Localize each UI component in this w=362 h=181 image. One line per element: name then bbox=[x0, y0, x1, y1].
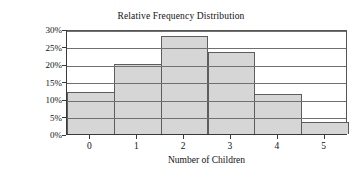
x-tick-label: 3 bbox=[215, 140, 245, 153]
x-tick-mark bbox=[136, 135, 137, 139]
relative-frequency-chart: Relative Frequency Distribution Relative… bbox=[0, 0, 362, 181]
bar bbox=[208, 52, 256, 134]
bar bbox=[254, 94, 302, 134]
x-tick-mark bbox=[324, 135, 325, 139]
x-tick-mark bbox=[89, 135, 90, 139]
bar bbox=[67, 92, 115, 134]
x-tick-label: 0 bbox=[74, 140, 104, 153]
x-tick-mark bbox=[183, 135, 184, 139]
y-axis-tick-marks bbox=[0, 30, 70, 135]
x-tick-label: 2 bbox=[168, 140, 198, 153]
x-tick-label: 4 bbox=[262, 140, 292, 153]
x-tick-mark bbox=[230, 135, 231, 139]
bars-layer bbox=[67, 31, 346, 134]
x-tick-label: 5 bbox=[309, 140, 339, 153]
bar bbox=[161, 36, 209, 134]
x-axis-tick-labels: 012345 bbox=[66, 140, 347, 154]
x-tick-mark bbox=[277, 135, 278, 139]
bar bbox=[114, 64, 162, 134]
chart-title: Relative Frequency Distribution bbox=[0, 11, 362, 21]
plot-area bbox=[66, 30, 347, 135]
x-tick-label: 1 bbox=[121, 140, 151, 153]
bar bbox=[301, 122, 349, 134]
x-axis-label: Number of Children bbox=[66, 155, 347, 165]
